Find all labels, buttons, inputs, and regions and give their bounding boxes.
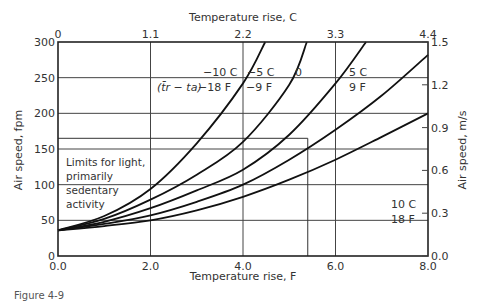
y2-tick-label: 0.6 (431, 164, 449, 177)
x-tick-label: 2.0 (142, 260, 160, 273)
curve-label-c: −5 C (247, 66, 275, 79)
curve-label-f: −9 F (246, 81, 272, 94)
limit-note-line: sedentary (66, 184, 119, 196)
y-tick-label: 250 (34, 72, 55, 85)
y2-tick-label: 0.0 (431, 250, 449, 263)
curve-label-c: 0 (295, 66, 302, 79)
y2-tick-label: 0.9 (431, 122, 449, 135)
x2-tick-label: 1.1 (142, 28, 160, 41)
y2-tick-label: 1.2 (431, 79, 449, 92)
limit-note-line: activity (66, 198, 105, 210)
curve-label-f: 9 F (349, 81, 366, 94)
y-tick-label: 150 (34, 143, 55, 156)
curve-label-c: 5 C (349, 66, 367, 79)
y2-axis-title: Air speed, m/s (456, 110, 469, 189)
grid-lines (58, 42, 428, 256)
curve-label-f: 18 F (391, 213, 415, 226)
x-axis-title: Temperature rise, F (189, 270, 297, 283)
x2-tick-label: 3.3 (327, 28, 345, 41)
curve-label-f: −18 F (198, 81, 231, 94)
y-axis-title: Air speed, fpm (12, 110, 25, 190)
y2-tick-label: 0.3 (431, 207, 449, 220)
series-header: (t̄r − ta) (157, 81, 202, 94)
x-tick-label: 0.0 (49, 260, 67, 273)
y-tick-label: 200 (34, 107, 55, 120)
axis-ticks: 0501001502002503000.002.01.14.02.26.03.3… (34, 28, 449, 273)
x2-axis-title: Temperature rise, C (188, 11, 297, 24)
y-tick-label: 300 (34, 36, 55, 49)
limit-note-line: Limits for light, (66, 156, 145, 168)
limit-note-line: primarily (66, 170, 113, 182)
x2-tick-label: 0 (55, 28, 62, 41)
figure-caption: Figure 4-9 (14, 290, 64, 301)
x-tick-label: 6.0 (327, 260, 345, 273)
y-tick-label: 100 (34, 179, 55, 192)
curve-label-c: −10 C (203, 66, 238, 79)
y2-tick-label: 1.5 (431, 36, 449, 49)
curve-label-c: 10 C (391, 198, 416, 211)
y-tick-label: 50 (41, 214, 55, 227)
x2-tick-label: 2.2 (234, 28, 252, 41)
axis-labels: Temperature rise, F Temperature rise, C … (12, 11, 469, 283)
